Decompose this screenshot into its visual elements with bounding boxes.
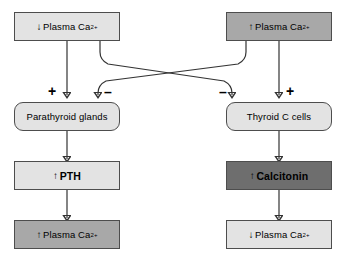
- node-low-plasma-calcium: ↓Plasma Ca2+: [14, 12, 120, 41]
- down-arrow-icon: ↓: [248, 229, 253, 240]
- node-label: Calcitonin: [256, 170, 308, 182]
- node-thyroid-c-cells: Thyroid C cells: [226, 102, 332, 131]
- sign-plus-thyroid-c: +: [286, 84, 294, 98]
- up-arrow-icon: ↑: [250, 170, 255, 181]
- node-pth: ↑PTH: [14, 161, 120, 190]
- node-calcitonin: ↑Calcitonin: [226, 161, 332, 190]
- up-arrow-icon: ↑: [53, 170, 58, 181]
- node-label: Plasma Ca: [255, 21, 302, 32]
- sign-minus-parathyroid: –: [104, 85, 112, 99]
- node-high-plasma-calcium: ↑Plasma Ca2+: [226, 12, 332, 41]
- node-plasma-calcium-decreased: ↓Plasma Ca2+: [226, 220, 332, 249]
- node-plasma-calcium-increased: ↑Plasma Ca2+: [14, 220, 120, 249]
- node-label: PTH: [60, 170, 81, 182]
- node-label: Plasma Ca: [43, 229, 90, 240]
- node-label: Plasma Ca: [43, 21, 90, 32]
- edge-low-ca-to-thyroid-c-inhibit: [100, 41, 232, 95]
- calcium-homeostasis-diagram: ↓Plasma Ca2+ ↑Plasma Ca2+ + – – + Parath…: [0, 0, 346, 268]
- node-label: Plasma Ca: [255, 229, 302, 240]
- up-arrow-icon: ↑: [248, 21, 253, 32]
- sign-minus-thyroid-c: –: [219, 85, 227, 99]
- up-arrow-icon: ↑: [36, 229, 41, 240]
- node-label: Parathyroid glands: [26, 111, 107, 122]
- sign-plus-parathyroid: +: [48, 84, 56, 98]
- node-label: Thyroid C cells: [247, 111, 311, 122]
- down-arrow-icon: ↓: [36, 21, 41, 32]
- node-parathyroid-glands: Parathyroid glands: [14, 102, 120, 131]
